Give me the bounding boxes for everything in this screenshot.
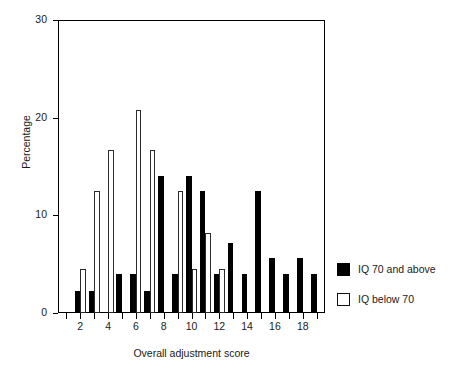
x-tick-mark <box>317 313 318 319</box>
bar <box>205 233 211 313</box>
bar <box>219 269 225 313</box>
y-axis-title: Percentage <box>20 82 32 202</box>
bar <box>228 243 234 313</box>
bar <box>178 191 184 313</box>
y-tick-mark <box>53 215 58 216</box>
legend-label: IQ below 70 <box>358 293 414 305</box>
bar <box>192 269 198 313</box>
bar <box>150 150 156 313</box>
bar <box>80 269 86 313</box>
x-tick-mark <box>192 313 193 319</box>
bar-chart-figure: 0102030 Percentage 24681012141618 Overal… <box>0 0 457 376</box>
x-tick-mark <box>289 313 290 319</box>
bar <box>108 150 114 313</box>
bar <box>94 191 100 313</box>
x-tick-mark <box>275 313 276 319</box>
x-tick-mark <box>261 313 262 319</box>
bar <box>283 274 289 313</box>
x-tick-mark <box>136 313 137 319</box>
x-tick-mark <box>122 313 123 319</box>
x-tick-mark <box>247 313 248 319</box>
bar <box>116 274 122 313</box>
x-tick-mark <box>66 313 67 319</box>
x-tick-label: 8 <box>152 320 176 332</box>
x-tick-mark <box>80 313 81 319</box>
x-tick-label: 6 <box>124 320 148 332</box>
y-tick-label: 0 <box>7 307 47 318</box>
chart-legend: IQ 70 and above IQ below 70 <box>337 262 457 322</box>
x-tick-label: 10 <box>180 320 204 332</box>
x-tick-mark <box>303 313 304 319</box>
bar <box>311 274 317 313</box>
legend-label: IQ 70 and above <box>358 263 436 275</box>
bar <box>269 258 275 313</box>
legend-swatch-white-icon <box>337 293 350 306</box>
legend-item-iq-70-and-above: IQ 70 and above <box>337 262 457 276</box>
x-tick-mark <box>108 313 109 319</box>
bar <box>255 191 261 313</box>
x-tick-mark <box>150 313 151 319</box>
legend-swatch-black-icon <box>337 263 350 276</box>
bar <box>242 274 248 313</box>
y-tick-mark <box>53 118 58 119</box>
x-tick-mark <box>164 313 165 319</box>
x-tick-mark <box>94 313 95 319</box>
x-tick-label: 16 <box>263 320 287 332</box>
x-tick-mark <box>219 313 220 319</box>
y-tick-label: 10 <box>7 209 47 220</box>
y-tick-mark <box>53 313 58 314</box>
legend-item-iq-below-70: IQ below 70 <box>337 292 457 306</box>
bar <box>136 110 142 313</box>
x-tick-label: 4 <box>96 320 120 332</box>
x-tick-mark <box>205 313 206 319</box>
y-tick-mark <box>53 20 58 21</box>
bar <box>297 258 303 313</box>
x-tick-mark <box>178 313 179 319</box>
x-tick-label: 12 <box>207 320 231 332</box>
x-tick-label: 18 <box>291 320 315 332</box>
x-axis-title: Overall adjustment score <box>58 347 325 359</box>
y-tick-label: 30 <box>7 14 47 25</box>
x-tick-mark <box>233 313 234 319</box>
x-tick-label: 14 <box>235 320 259 332</box>
bar <box>158 176 164 313</box>
x-tick-label: 2 <box>68 320 92 332</box>
